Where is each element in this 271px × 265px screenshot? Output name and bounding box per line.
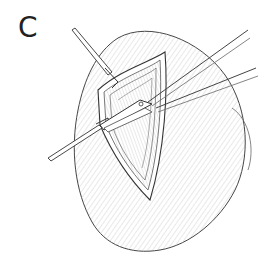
surgical-illustration — [0, 0, 271, 265]
